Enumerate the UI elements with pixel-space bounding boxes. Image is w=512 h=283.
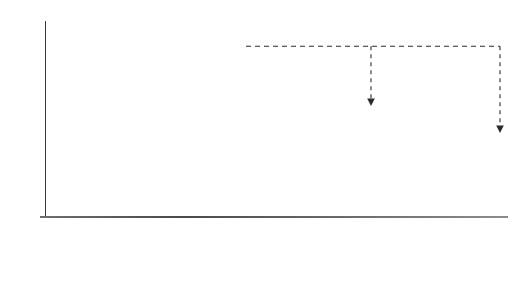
x-axis-line — [40, 216, 508, 217]
annotation-overlay — [0, 0, 512, 283]
y-axis-line — [45, 21, 46, 217]
bar-chart — [0, 0, 512, 283]
cut-off-figure-title — [0, 0, 512, 3]
